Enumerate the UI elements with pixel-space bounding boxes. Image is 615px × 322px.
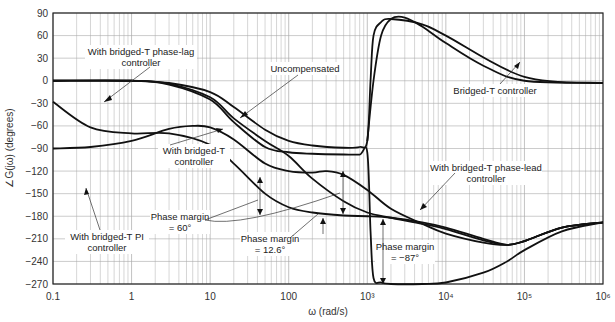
annotation-uncompensated: Uncompensated xyxy=(270,62,340,75)
x-tick-label: 10⁶ xyxy=(595,291,610,302)
y-tick-label: −30 xyxy=(31,98,48,109)
y-tick-label: −180 xyxy=(25,211,48,222)
annotation-phase-lag: With bridged-T phase-lag controller xyxy=(85,45,197,69)
y-tick-label: −90 xyxy=(31,143,48,154)
svg-text:= −87°: = −87° xyxy=(391,252,419,263)
annotation-with-bridged-t: With bridged-T controller xyxy=(158,144,230,168)
y-tick-label: 90 xyxy=(37,8,49,19)
x-axis-ticks: 0.111010010³10⁴10⁵10⁶ xyxy=(46,291,611,302)
svg-text:= 60°: = 60° xyxy=(169,222,192,233)
svg-text:controller: controller xyxy=(174,156,213,167)
svg-text:Phase margin: Phase margin xyxy=(376,241,435,252)
y-tick-label: 30 xyxy=(37,53,49,64)
x-tick-label: 10⁵ xyxy=(517,291,532,302)
svg-text:Phase margin: Phase margin xyxy=(151,211,210,222)
y-axis-ticks: 9060300−30−60−90−120−150−180−210−240−270 xyxy=(25,8,48,290)
x-tick-label: 1 xyxy=(129,291,135,302)
y-tick-label: 60 xyxy=(37,30,49,41)
y-tick-label: −150 xyxy=(25,188,48,199)
svg-text:controller: controller xyxy=(466,173,505,184)
annotation-pm-12-6: Phase margin = 12.6° xyxy=(240,232,300,256)
y-tick-label: −210 xyxy=(25,233,48,244)
y-axis-label: ∠G(jω) (degrees) xyxy=(4,108,15,187)
svg-text:Phase margin: Phase margin xyxy=(241,233,300,244)
bode-phase-chart: 9060300−30−60−90−120−150−180−210−240−270… xyxy=(0,0,615,322)
svg-text:Bridged-T controller: Bridged-T controller xyxy=(453,85,536,96)
svg-text:controller: controller xyxy=(121,57,160,68)
annotation-pm-60: Phase margin = 60° xyxy=(150,210,210,234)
y-tick-label: −60 xyxy=(31,120,48,131)
curve-uncompensated xyxy=(53,19,603,148)
curve-with-bridged-t-pi-controller xyxy=(53,126,603,245)
svg-text:controller: controller xyxy=(87,242,126,253)
svg-text:With bridged-T PI: With bridged-T PI xyxy=(70,231,144,242)
x-tick-label: 10³ xyxy=(360,291,375,302)
y-tick-label: −270 xyxy=(25,279,48,290)
x-tick-label: 10⁴ xyxy=(438,291,453,302)
svg-text:= 12.6°: = 12.6° xyxy=(255,244,286,255)
svg-text:With bridged-T phase-lag: With bridged-T phase-lag xyxy=(88,46,195,57)
svg-text:With bridged-T phase-lead: With bridged-T phase-lead xyxy=(430,162,542,173)
x-tick-label: 10 xyxy=(205,291,217,302)
x-axis-label: ω (rad/s) xyxy=(308,306,347,317)
annotation-bridged-t: Bridged-T controller xyxy=(450,84,540,97)
x-tick-label: 0.1 xyxy=(46,291,60,302)
annotation-pi: With bridged-T PI controller xyxy=(65,230,149,254)
svg-text:With bridged-T: With bridged-T xyxy=(163,145,225,156)
svg-text:Uncompensated: Uncompensated xyxy=(270,63,339,74)
y-tick-label: −240 xyxy=(25,256,48,267)
y-tick-label: −120 xyxy=(25,166,48,177)
annotation-pm-neg87: Phase margin = −87° xyxy=(375,240,435,264)
y-tick-label: 0 xyxy=(42,75,48,86)
x-tick-label: 100 xyxy=(280,291,297,302)
